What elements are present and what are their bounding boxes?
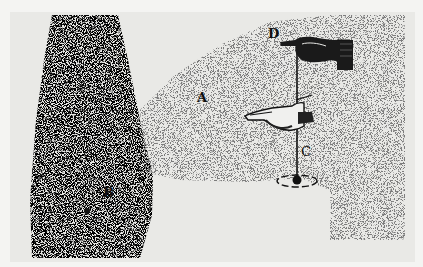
label-d: D xyxy=(268,26,279,41)
label-a: A xyxy=(197,90,207,105)
light-stippled-region xyxy=(140,15,405,240)
pendulum-bob xyxy=(293,176,302,185)
point-b-dot xyxy=(84,208,90,214)
illustration xyxy=(0,0,423,267)
label-b: B xyxy=(103,185,114,200)
label-c: C xyxy=(301,144,311,159)
dark-column-region xyxy=(30,15,153,258)
